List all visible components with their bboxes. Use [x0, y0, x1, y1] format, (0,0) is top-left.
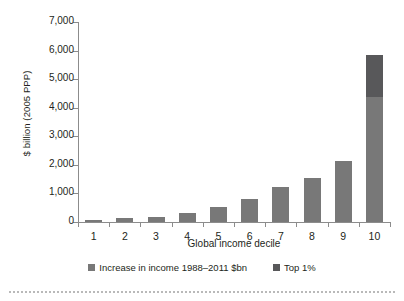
bar-segment-increase — [210, 207, 227, 222]
bar-segment-increase — [148, 217, 165, 222]
legend-item-top-1-percent: Top 1% — [273, 262, 316, 273]
x-tick-mark — [296, 222, 297, 227]
bar-segment-increase — [335, 161, 352, 222]
x-axis-title: Global income decile — [78, 238, 390, 249]
bar-decile-5[interactable] — [210, 207, 227, 222]
bar-decile-2[interactable] — [116, 218, 133, 222]
bar-segment-increase — [366, 97, 383, 222]
y-tick-label: 4,000 — [49, 101, 74, 112]
bar-decile-1[interactable] — [85, 220, 102, 222]
legend-item-increase-in-income: Increase in income 1988–2011 $bn — [88, 262, 247, 273]
y-tick-label: 2,000 — [49, 158, 74, 169]
legend-swatch-icon — [273, 264, 280, 271]
bar-decile-9[interactable] — [335, 161, 352, 222]
bar-segment-increase — [85, 220, 102, 222]
x-tick-mark — [359, 222, 360, 227]
x-tick-mark — [328, 222, 329, 227]
chart-figure: $ billion (2005 PPP) 0 1,000 2,000 3,000… — [0, 0, 404, 301]
bar-decile-4[interactable] — [179, 213, 196, 222]
bar-decile-3[interactable] — [148, 217, 165, 222]
bar-segment-increase — [304, 178, 321, 222]
bar-segment-increase — [116, 218, 133, 222]
x-tick-mark — [390, 222, 391, 227]
bottom-dotted-divider — [8, 291, 396, 293]
bar-decile-8[interactable] — [304, 178, 321, 222]
x-tick-mark — [265, 222, 266, 227]
legend-label: Increase in income 1988–2011 $bn — [99, 262, 247, 273]
x-tick-mark — [172, 222, 173, 227]
bar-segment-increase — [179, 213, 196, 222]
x-tick-mark — [203, 222, 204, 227]
y-tick-label: 7,000 — [49, 15, 74, 26]
x-tick-mark — [140, 222, 141, 227]
y-tick-label: 1,000 — [49, 186, 74, 197]
y-axis-title: $ billion (2005 PPP) — [21, 44, 32, 184]
bar-decile-6[interactable] — [241, 199, 258, 222]
x-tick-mark — [78, 222, 79, 227]
legend-swatch-icon — [88, 264, 95, 271]
plot-area: 0 1,000 2,000 3,000 4,000 5,000 6,000 7 — [78, 22, 390, 222]
x-tick-mark — [234, 222, 235, 227]
bar-decile-10[interactable] — [366, 55, 383, 222]
y-tick-label: 3,000 — [49, 129, 74, 140]
bar-decile-7[interactable] — [272, 187, 289, 222]
legend-label: Top 1% — [284, 262, 316, 273]
y-axis-line — [78, 22, 79, 222]
bar-segment-top1 — [366, 55, 383, 97]
bar-segment-increase — [272, 187, 289, 222]
x-tick-mark — [109, 222, 110, 227]
chart-legend: Increase in income 1988–2011 $bn Top 1% — [0, 262, 404, 273]
y-tick-label: 0 — [68, 215, 74, 226]
y-tick-label: 6,000 — [49, 44, 74, 55]
bar-segment-increase — [241, 199, 258, 222]
y-tick-label: 5,000 — [49, 72, 74, 83]
